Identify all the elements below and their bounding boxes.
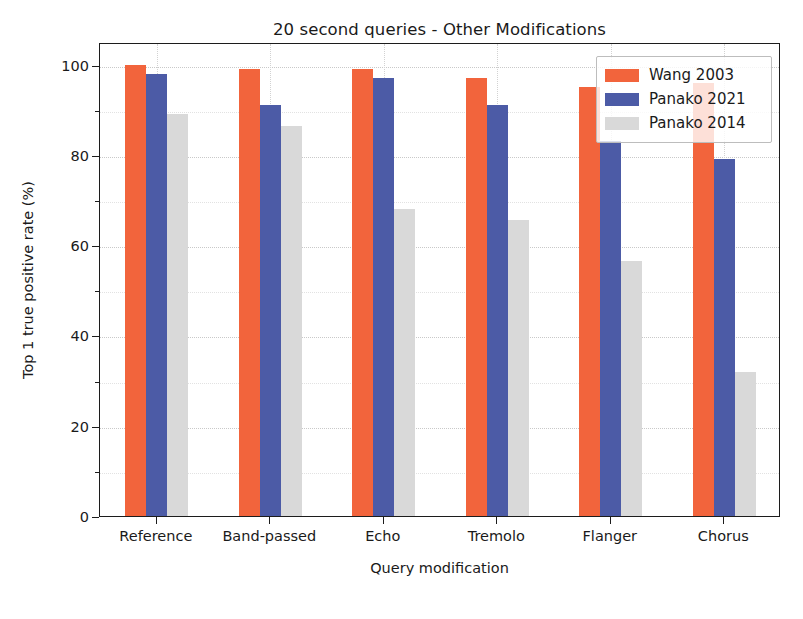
x-tick	[383, 517, 384, 524]
y-tick-minor	[95, 382, 99, 383]
x-tick-label-chorus: Chorus	[698, 528, 749, 544]
x-tick	[156, 517, 157, 524]
bar-panako-2014-band-passed	[281, 126, 302, 517]
legend-label-wang-2003: Wang 2003	[649, 66, 734, 84]
x-tick	[723, 517, 724, 524]
y-tick-major	[92, 517, 99, 518]
legend: Wang 2003 Panako 2021 Panako 2014	[596, 56, 772, 143]
bar-panako-2014-chorus	[735, 372, 756, 517]
x-tick	[610, 517, 611, 524]
x-axis-label: Query modification	[99, 560, 780, 576]
gridline-major	[100, 247, 779, 248]
y-tick-minor	[95, 291, 99, 292]
x-tick-label-tremolo: Tremolo	[468, 528, 525, 544]
bar-panako-2021-band-passed	[260, 105, 281, 516]
bar-panako-2014-tremolo	[508, 220, 529, 516]
legend-swatch-wang-2003	[605, 69, 639, 82]
y-tick-label: 40	[71, 328, 89, 344]
legend-item: Panako 2014	[605, 111, 763, 135]
legend-label-panako-2014: Panako 2014	[649, 114, 746, 132]
bar-wang-2003-echo	[352, 69, 373, 516]
bar-panako-2021-flanger	[600, 141, 621, 516]
bar-panako-2014-echo	[394, 209, 415, 516]
y-tick-minor	[95, 201, 99, 202]
y-tick-label: 0	[80, 509, 89, 525]
legend-item: Panako 2021	[605, 87, 763, 111]
y-axis-label: Top 1 true positive rate (%)	[20, 181, 36, 379]
x-tick-label-reference: Reference	[119, 528, 192, 544]
bar-panako-2021-reference	[146, 74, 167, 516]
legend-item: Wang 2003	[605, 63, 763, 87]
gridline-major	[100, 157, 779, 158]
y-tick-label: 80	[71, 148, 89, 164]
gridline-minor	[100, 383, 779, 384]
y-tick-minor	[95, 472, 99, 473]
bar-panako-2021-chorus	[714, 159, 735, 516]
gridline-minor	[100, 202, 779, 203]
y-tick-major	[92, 66, 99, 67]
y-tick-label: 100	[61, 58, 89, 74]
bar-wang-2003-band-passed	[239, 69, 260, 516]
legend-label-panako-2021: Panako 2021	[649, 90, 746, 108]
y-tick-major	[92, 427, 99, 428]
bar-panako-2021-tremolo	[487, 105, 508, 516]
x-tick-label-echo: Echo	[365, 528, 400, 544]
gridline-major	[100, 428, 779, 429]
chart-figure: 20 second queries - Other Modifications …	[0, 0, 803, 619]
x-tick	[269, 517, 270, 524]
legend-swatch-panako-2021	[605, 93, 639, 106]
x-tick-label-band-passed: Band-passed	[222, 528, 316, 544]
y-tick-label: 20	[71, 419, 89, 435]
bar-panako-2021-echo	[373, 78, 394, 516]
bar-wang-2003-reference	[125, 65, 146, 516]
bar-panako-2014-reference	[167, 114, 188, 516]
chart-title: 20 second queries - Other Modifications	[99, 20, 780, 39]
y-tick-major	[92, 246, 99, 247]
gridline-major	[100, 337, 779, 338]
y-tick-major	[92, 336, 99, 337]
x-tick-label-flanger: Flanger	[583, 528, 638, 544]
y-tick-major	[92, 156, 99, 157]
gridline-minor	[100, 292, 779, 293]
legend-swatch-panako-2014	[605, 117, 639, 130]
bar-wang-2003-chorus	[693, 83, 714, 516]
bar-wang-2003-tremolo	[466, 78, 487, 516]
y-tick-minor	[95, 111, 99, 112]
gridline-minor	[100, 473, 779, 474]
bar-panako-2014-flanger	[621, 261, 642, 516]
bar-wang-2003-flanger	[579, 87, 600, 516]
x-tick	[496, 517, 497, 524]
y-tick-label: 60	[71, 238, 89, 254]
